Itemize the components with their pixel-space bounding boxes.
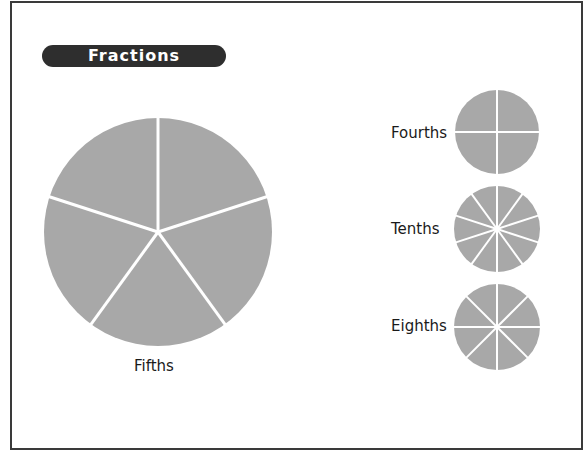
fourths-label: Fourths — [391, 124, 447, 142]
fifths-circle — [44, 117, 272, 346]
tenths-label: Tenths — [391, 220, 440, 238]
fifths-label: Fifths — [134, 357, 174, 375]
eighths-label: Eighths — [391, 317, 447, 335]
fourths-circle — [454, 89, 540, 175]
eighths-circle — [453, 283, 541, 371]
tenths-circle — [454, 185, 540, 273]
fraction-circles — [0, 0, 583, 468]
